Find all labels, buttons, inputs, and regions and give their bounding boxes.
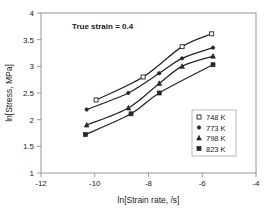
y-tick-label: 1.5 bbox=[23, 142, 35, 151]
x-axis-title: ln[Strain rate, /s] bbox=[118, 195, 180, 205]
y-tick-label: 1 bbox=[30, 169, 35, 178]
legend-label: 748 K bbox=[206, 113, 226, 122]
x-tick-label: -10 bbox=[89, 179, 101, 188]
chart-figure: -12-10-8-6-411.522.533.54ln[Strain rate,… bbox=[0, 0, 267, 211]
y-tick-label: 3 bbox=[30, 62, 35, 71]
legend-label: 823 K bbox=[206, 145, 226, 154]
data-point-marker bbox=[180, 45, 184, 49]
data-point-marker bbox=[211, 46, 214, 49]
data-point-marker bbox=[141, 75, 145, 79]
y-tick-label: 2 bbox=[30, 116, 35, 125]
series-748-k bbox=[94, 32, 214, 102]
line-chart: -12-10-8-6-411.522.533.54ln[Strain rate,… bbox=[0, 0, 267, 211]
data-point-marker bbox=[85, 108, 88, 111]
x-tick-label: -6 bbox=[199, 179, 207, 188]
series-line bbox=[96, 34, 212, 100]
data-point-marker bbox=[129, 112, 133, 116]
chart-legend: 748 K773 K798 K823 K bbox=[192, 110, 236, 156]
data-point-marker bbox=[158, 72, 161, 75]
x-tick-label: -8 bbox=[145, 179, 153, 188]
legend-marker bbox=[197, 115, 201, 119]
legend-label: 798 K bbox=[206, 134, 226, 143]
chart-annotation: True strain = 0.4 bbox=[72, 22, 134, 31]
legend-marker bbox=[197, 147, 201, 151]
data-point-marker bbox=[211, 63, 215, 67]
legend-label: 773 K bbox=[206, 124, 226, 133]
y-tick-label: 3.5 bbox=[23, 36, 35, 45]
x-tick-label: -4 bbox=[252, 179, 260, 188]
legend-marker bbox=[197, 126, 200, 129]
data-point-marker bbox=[94, 98, 98, 102]
data-point-marker bbox=[211, 54, 216, 59]
x-tick-label: -12 bbox=[35, 179, 47, 188]
y-axis-title: ln[Stress, MPa] bbox=[4, 64, 14, 122]
data-point-marker bbox=[180, 57, 183, 60]
data-point-marker bbox=[210, 32, 214, 36]
y-tick-label: 4 bbox=[30, 9, 35, 18]
data-point-marker bbox=[127, 91, 130, 94]
data-point-marker bbox=[83, 133, 87, 137]
data-point-marker bbox=[157, 91, 161, 95]
series-773-k bbox=[85, 46, 215, 111]
y-tick-label: 2.5 bbox=[23, 89, 35, 98]
